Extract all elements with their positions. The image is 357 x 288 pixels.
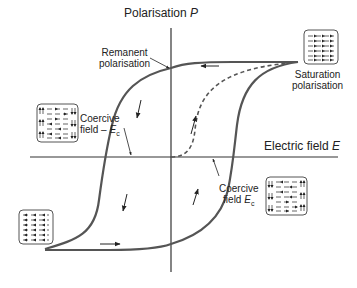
coercive-pos-subscript: c [251,200,255,207]
coercive-neg-line1: Coercive [80,113,120,124]
remanent-line2: polarisation [99,58,150,69]
pointer-remanent [150,58,169,68]
domain-box-saturation-positive [304,30,338,64]
domain-box-saturation-negative [19,210,53,244]
saturation-line2: polarisation [292,80,343,91]
coercive-field-positive-label: Coercive field Ec [219,183,258,209]
coercive-pos-text: field [223,194,241,205]
remanent-polarisation-label: Remanent polarisation [99,47,150,69]
coercive-pos-symbol: E [244,194,251,205]
y-axis-label-text: Polarisation [124,6,187,20]
pointer-coercive-pos [213,159,219,176]
coercive-pos-line1: Coercive [219,183,258,194]
arrow-up-right [193,189,198,205]
domain-box-mixed-positive [266,177,307,215]
saturation-polarisation-label: Saturation polarisation [292,69,343,91]
coercive-neg-subscript: c [116,130,120,137]
x-axis-label-text: Electric field [264,139,329,153]
coercive-field-negative-label: Coercive field – Ec [80,113,120,139]
coercive-pos-line2: field Ec [219,194,258,209]
y-axis-label: Polarisation P [124,8,198,19]
coercive-neg-line2: field – Ec [80,124,120,139]
remanent-line1: Remanent [99,47,150,58]
saturation-line1: Saturation [292,69,343,80]
x-axis-label: Electric field E [264,141,340,152]
pointer-coercive-neg [124,128,131,155]
arrow-down-left-lower [123,194,127,211]
y-axis-symbol: P [190,6,198,20]
arrow-down-left-upper [137,100,141,118]
domain-box-mixed-negative [37,104,78,142]
x-axis-symbol: E [332,139,340,153]
coercive-neg-text: field – [80,124,107,135]
hysteresis-diagram: Polarisation P Electric field E Remanent… [0,0,357,288]
